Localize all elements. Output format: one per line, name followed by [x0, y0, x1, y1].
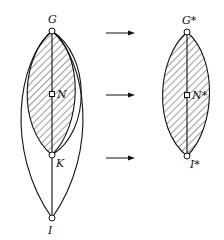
arrow-g: [106, 31, 135, 36]
node-n-star: [185, 93, 190, 98]
label-i: I: [47, 224, 53, 237]
node-i: [49, 215, 55, 221]
right-graph: G* N* I*: [163, 14, 210, 171]
label-g: G: [48, 13, 57, 26]
arrows: [106, 31, 135, 161]
contraction-diagram: G N K I G* N* I*: [0, 0, 224, 240]
label-n: N: [56, 88, 67, 101]
label-k: K: [55, 157, 65, 170]
left-graph: G N K I: [21, 13, 83, 237]
arrow-n: [106, 93, 135, 98]
node-g: [49, 28, 55, 34]
label-i-star: I*: [189, 158, 200, 171]
label-g-star: G*: [182, 14, 197, 27]
node-n: [50, 92, 55, 97]
label-n-star: N*: [191, 89, 208, 102]
node-g-star: [184, 29, 190, 35]
node-k: [49, 152, 55, 158]
arrow-k: [106, 156, 135, 161]
